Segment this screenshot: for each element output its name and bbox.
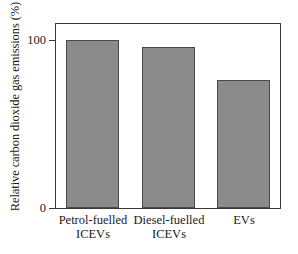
x-category-label-petrol-fuelled-icevs: Petrol-fuelled ICEVs bbox=[50, 213, 136, 242]
bar-diesel-fuelled-icevs bbox=[142, 47, 195, 208]
x-category-label-diesel-fuelled-icevs: Diesel-fuelled ICEVs bbox=[126, 213, 212, 242]
bar-evs bbox=[217, 80, 270, 208]
x-category-label-evs: EVs bbox=[201, 213, 287, 227]
bar-chart-figure: Relative carbon dioxide gas emissions (%… bbox=[0, 0, 298, 254]
bar-petrol-fuelled-icevs bbox=[66, 40, 119, 208]
y-tick-label-100: 100 bbox=[12, 34, 46, 47]
y-tick-label-0: 0 bbox=[12, 202, 46, 215]
